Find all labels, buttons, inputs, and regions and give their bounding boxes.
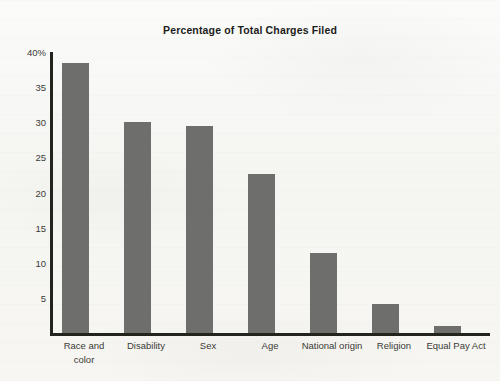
- bar-slot: [177, 52, 239, 333]
- bar-slot: [301, 52, 363, 333]
- bar[interactable]: [62, 63, 89, 333]
- bar-slot: [363, 52, 425, 333]
- x-axis-line: [50, 333, 490, 336]
- bar-slot: [239, 52, 301, 333]
- y-axis-tick-labels: 510152025303540%: [0, 0, 46, 381]
- chart-title: Percentage of Total Charges Filed: [0, 24, 500, 36]
- x-axis-category-label: Age: [239, 339, 301, 353]
- y-axis-tick-label: 20: [4, 187, 46, 198]
- bar[interactable]: [248, 174, 275, 333]
- y-axis-tick-label: 15: [4, 222, 46, 233]
- bar[interactable]: [124, 122, 151, 333]
- bar-chart-figure: Percentage of Total Charges Filed 510152…: [0, 0, 500, 381]
- x-axis-category-label: Disability: [115, 339, 177, 353]
- y-axis-tick-label: 10: [4, 257, 46, 268]
- bar-slot: [115, 52, 177, 333]
- bar[interactable]: [186, 126, 213, 333]
- y-axis-tick-label: 5: [4, 292, 46, 303]
- y-axis-tick-label: 25: [4, 152, 46, 163]
- x-axis-category-label: Sex: [177, 339, 239, 353]
- bar-slot: [425, 52, 487, 333]
- plot-area: [53, 52, 490, 333]
- y-axis-tick-label: 40%: [4, 47, 46, 58]
- y-axis-tick-label: 30: [4, 117, 46, 128]
- x-axis-category-label: Equal Pay Act: [425, 339, 487, 353]
- bar-slot: [53, 52, 115, 333]
- bar[interactable]: [310, 253, 337, 333]
- bar[interactable]: [372, 304, 399, 334]
- y-axis-tick-label: 35: [4, 82, 46, 93]
- x-axis-category-labels: Race and colorDisabilitySexAgeNational o…: [53, 339, 490, 381]
- bar[interactable]: [434, 326, 461, 333]
- x-axis-category-label: National origin: [301, 339, 363, 353]
- x-axis-category-label: Religion: [363, 339, 425, 353]
- x-axis-category-label: Race and color: [53, 339, 115, 366]
